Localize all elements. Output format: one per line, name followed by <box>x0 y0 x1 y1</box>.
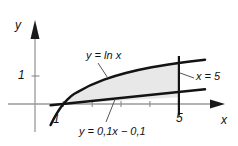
leader-line-log <box>98 63 108 78</box>
curve-linear-label: y = 0,1x − 0,1 <box>79 126 146 137</box>
figure-canvas: y x 1 1 5 y = ln x y = 0,1x − 0,1 x = 5 <box>0 0 238 146</box>
x-tick-label-5: 5 <box>176 112 183 124</box>
curve-log-label: y = ln x <box>86 50 121 61</box>
vertical-line-label: x = 5 <box>196 71 220 82</box>
leader-line-linear <box>106 99 115 122</box>
x-axis-arrowhead <box>210 100 225 109</box>
y-tick-label-1: 1 <box>18 69 25 81</box>
x-axis-label: x <box>221 114 227 126</box>
x-tick-label-1: 1 <box>53 113 60 125</box>
y-axis-label: y <box>15 19 21 31</box>
leader-line-x5 <box>180 73 194 78</box>
y-axis-arrowhead <box>31 20 40 39</box>
